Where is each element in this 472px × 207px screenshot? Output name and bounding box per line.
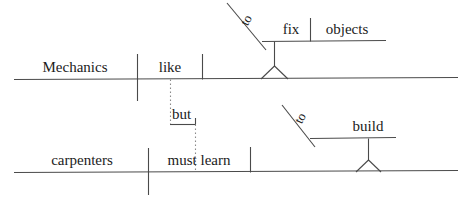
verb-label-clause-1: like	[159, 60, 182, 75]
infinitive-verb-label-clause-2: build	[353, 119, 384, 134]
infinitive-tripod-right-clause-2	[369, 160, 382, 172]
subject-label-clause-2: carpenters	[51, 153, 113, 168]
verb-label-clause-2: must learn	[168, 153, 231, 168]
infinitive-object-label-clause-1: objects	[326, 22, 369, 37]
diagram-lines	[0, 0, 472, 207]
baseline-clause-2	[14, 171, 458, 173]
infinitive-tripod-left-clause-2	[356, 160, 369, 172]
infinitive-baseline-clause-1	[262, 41, 386, 42]
infinitive-baseline-clause-2	[310, 138, 396, 139]
infinitive-tripod-right-clause-1	[275, 66, 289, 79]
subject-label-clause-1: Mechanics	[43, 60, 108, 75]
infinitive-verb-label-clause-1: fix	[283, 22, 300, 37]
conjunction-label: but	[172, 107, 191, 122]
baseline-clause-1	[14, 78, 458, 80]
infinitive-tripod-left-clause-1	[261, 66, 275, 79]
sentence-diagram: Mechanics like to fix objects but carpen…	[0, 0, 472, 207]
